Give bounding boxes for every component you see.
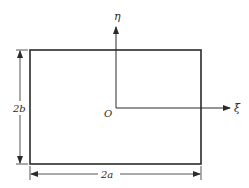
origin-label: O: [104, 108, 112, 119]
height-dimension-label: 2b: [12, 103, 26, 114]
diagram-canvas: η ξ O 2b 2a: [0, 0, 249, 188]
width-dimension-label: 2a: [100, 169, 113, 180]
eta-axis-label: η: [114, 10, 121, 23]
xi-axis-label: ξ: [234, 102, 241, 115]
